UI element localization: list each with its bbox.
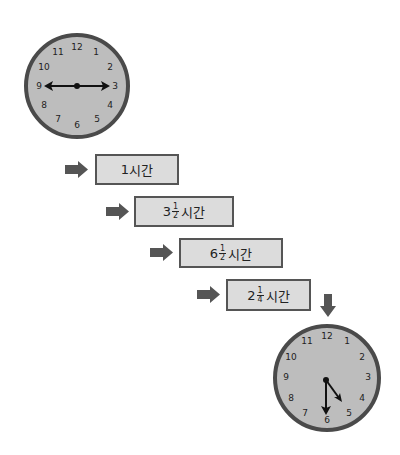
step-fraction: 12 bbox=[172, 203, 179, 220]
step-box-3: 6 12 시간 bbox=[179, 238, 283, 268]
svg-text:2: 2 bbox=[359, 352, 365, 362]
step-unit: 시간 bbox=[228, 244, 252, 263]
svg-text:8: 8 bbox=[288, 393, 294, 403]
svg-text:6: 6 bbox=[324, 415, 330, 425]
step-unit: 시간 bbox=[129, 160, 153, 179]
end-clock: 12 1 2 3 4 5 6 7 8 9 10 11 bbox=[272, 322, 382, 434]
svg-text:4: 4 bbox=[359, 393, 365, 403]
step-unit: 시간 bbox=[266, 286, 290, 305]
right-arrow-icon bbox=[197, 286, 220, 303]
svg-text:9: 9 bbox=[283, 372, 289, 382]
svg-text:4: 4 bbox=[107, 100, 113, 110]
step-box-4: 2 14 시간 bbox=[226, 279, 311, 311]
down-arrow-icon bbox=[320, 294, 336, 317]
step-fraction: 12 bbox=[219, 245, 226, 262]
svg-text:6: 6 bbox=[74, 120, 80, 130]
clock-pivot bbox=[74, 83, 80, 89]
svg-text:3: 3 bbox=[365, 372, 371, 382]
svg-text:11: 11 bbox=[52, 47, 63, 57]
step-whole: 1 bbox=[121, 162, 129, 177]
svg-text:7: 7 bbox=[302, 408, 308, 418]
right-arrow-icon bbox=[106, 203, 129, 220]
svg-text:1: 1 bbox=[344, 336, 350, 346]
svg-text:11: 11 bbox=[301, 336, 312, 346]
right-arrow-icon bbox=[150, 244, 173, 261]
svg-text:12: 12 bbox=[321, 331, 332, 341]
step-unit: 시간 bbox=[181, 202, 205, 221]
right-arrow-icon bbox=[65, 161, 88, 178]
svg-text:10: 10 bbox=[285, 352, 297, 362]
svg-text:7: 7 bbox=[55, 114, 61, 124]
svg-text:9: 9 bbox=[36, 81, 42, 91]
svg-text:3: 3 bbox=[112, 81, 118, 91]
svg-text:2: 2 bbox=[107, 62, 113, 72]
step-fraction: 14 bbox=[257, 287, 264, 304]
step-whole: 6 bbox=[210, 246, 218, 261]
clock-pivot bbox=[323, 377, 329, 383]
svg-text:12: 12 bbox=[71, 42, 82, 52]
svg-text:1: 1 bbox=[93, 47, 99, 57]
step-whole: 3 bbox=[163, 204, 171, 219]
step-whole: 2 bbox=[247, 288, 255, 303]
svg-text:5: 5 bbox=[94, 114, 100, 124]
svg-text:8: 8 bbox=[41, 100, 47, 110]
svg-text:10: 10 bbox=[38, 62, 50, 72]
start-clock: 12 1 2 3 4 5 6 7 8 9 10 11 bbox=[22, 31, 132, 141]
step-box-2: 3 12 시간 bbox=[134, 196, 234, 227]
step-box-1: 1시간 bbox=[95, 154, 179, 185]
svg-text:5: 5 bbox=[346, 408, 352, 418]
